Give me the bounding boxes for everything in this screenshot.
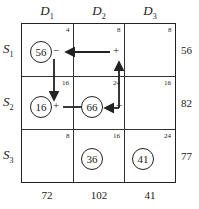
supply-s2: 82 (181, 97, 192, 109)
allocation-s2d1: 16 (30, 96, 52, 118)
column-header-d1: D1 (21, 3, 73, 21)
sign-s2d2: − (116, 99, 122, 111)
row-header-s3: S3 (3, 147, 14, 165)
allocation-s3d3: 41 (132, 148, 154, 170)
row-header-s2: S2 (3, 94, 14, 112)
supply-s3: 77 (181, 150, 192, 162)
allocation-s2d2: 66 (81, 96, 103, 118)
demand-d2: 102 (73, 189, 125, 201)
row-header-s1: S1 (3, 41, 14, 59)
sign-s1d2: + (113, 44, 119, 56)
transportation-tableau: 4 8 8 16 24 16 8 16 24 56 16 66 36 41 − … (21, 23, 176, 183)
column-header-d2: D2 (73, 3, 125, 21)
supply-s1: 56 (181, 44, 192, 56)
allocation-s1d1: 56 (30, 41, 52, 63)
allocation-s3d2: 36 (81, 148, 103, 170)
demand-d3: 41 (124, 189, 176, 201)
sign-s1d1: − (53, 44, 59, 56)
sign-s2d1: + (53, 99, 59, 111)
demand-d1: 72 (21, 189, 73, 201)
column-header-d3: D3 (124, 3, 176, 21)
